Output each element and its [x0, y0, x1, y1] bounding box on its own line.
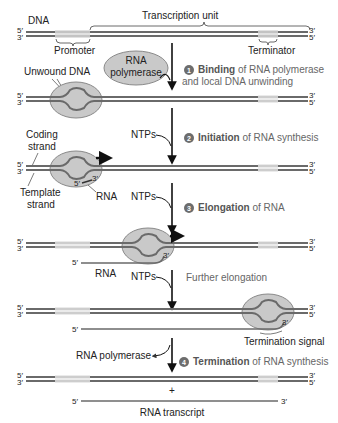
further-elongation-label: Further elongation [186, 272, 267, 283]
rna-polymerase-free: RNA polymerase [104, 51, 170, 85]
rna-label-4: RNA [95, 268, 116, 279]
ntps-3: NTPs [131, 191, 171, 208]
svg-text:NTPs: NTPs [131, 191, 156, 202]
svg-text:2: 2 [187, 135, 191, 142]
step-4: 4 Termination of RNA synthesis [179, 356, 328, 367]
terminator-region [258, 30, 278, 38]
svg-text:5′: 5′ [309, 167, 315, 176]
svg-text:3′: 3′ [17, 33, 23, 42]
svg-text:3′: 3′ [163, 251, 169, 260]
svg-text:5′: 5′ [309, 33, 315, 42]
svg-text:1: 1 [187, 67, 191, 74]
dna-row-1: DNA Transcription unit 5′ 3′ 3′ 5′ Promo… [17, 10, 315, 56]
promoter-label: Promoter [54, 45, 96, 56]
step-1: 1 Binding of RNA polymerase and local DN… [182, 64, 325, 87]
svg-text:5′: 5′ [74, 179, 80, 188]
step-3: 3 Elongation of RNA [184, 202, 285, 213]
svg-text:3′: 3′ [92, 174, 98, 183]
svg-text:Termination of RNA synthesis: Termination of RNA synthesis [193, 356, 328, 367]
transcription-unit-bracket [90, 22, 310, 30]
rna-polymerase-release-label: RNA polymerase [76, 350, 151, 361]
svg-text:polymerase: polymerase [110, 67, 162, 78]
coding-strand-label: Coding [26, 129, 58, 140]
svg-text:5′: 5′ [72, 325, 78, 334]
svg-text:NTPs: NTPs [131, 271, 156, 282]
svg-text:5′: 5′ [72, 258, 78, 267]
svg-text:3′: 3′ [282, 318, 288, 327]
svg-text:3′: 3′ [17, 167, 23, 176]
svg-text:3′: 3′ [17, 98, 23, 107]
svg-text:and local DNA unwinding: and local DNA unwinding [182, 76, 293, 87]
transcription-unit-label: Transcription unit [142, 10, 219, 21]
svg-text:3′: 3′ [281, 397, 287, 406]
dna-label: DNA [28, 15, 49, 26]
rna-label-3: RNA [96, 191, 117, 202]
ntps-4: NTPs [131, 271, 171, 288]
ntps-2: NTPs [131, 129, 171, 146]
step-2: 2 Initiation of RNA synthesis [184, 132, 319, 143]
polymerase-release: RNA polymerase [76, 345, 170, 361]
svg-text:NTPs: NTPs [131, 129, 156, 140]
svg-text:strand: strand [28, 141, 56, 152]
diagram-canvas: DNA Transcription unit 5′ 3′ 3′ 5′ Promo… [0, 0, 338, 423]
svg-text:Elongation of RNA: Elongation of RNA [198, 202, 285, 213]
unwound-dna-label: Unwound DNA [24, 66, 90, 77]
svg-text:strand: strand [27, 199, 55, 210]
svg-text:5′: 5′ [72, 397, 78, 406]
svg-text:5′: 5′ [309, 244, 315, 253]
svg-text:5′: 5′ [309, 310, 315, 319]
svg-text:3′: 3′ [17, 244, 23, 253]
dna-row-4: 5′ 3′ 3′ 5′ 5′ 3′ RNA [17, 228, 315, 279]
svg-text:3′: 3′ [17, 378, 23, 387]
svg-text:RNA: RNA [125, 55, 146, 66]
svg-text:Binding of RNA polymerase: Binding of RNA polymerase [198, 64, 325, 75]
svg-text:Initiation of RNA synthesis: Initiation of RNA synthesis [198, 132, 319, 143]
promoter-region [55, 30, 90, 38]
svg-text:5′: 5′ [309, 98, 315, 107]
template-strand-label: Template [20, 187, 61, 198]
terminator-label: Terminator [248, 45, 296, 56]
rna-transcript-label: RNA transcript [140, 407, 205, 418]
termination-signal-label: Termination signal [244, 336, 325, 347]
svg-text:5′: 5′ [309, 378, 315, 387]
plus-sign: + [169, 385, 175, 396]
transcription-diagram: DNA Transcription unit 5′ 3′ 3′ 5′ Promo… [0, 0, 338, 423]
svg-text:3′: 3′ [17, 310, 23, 319]
dna-row-6: 5′ 3′ 3′ 5′ + 5′ 3′ RNA transcript [17, 371, 315, 418]
dna-row-5: 5′ 3′ 3′ 5′ 5′ 3′ Termination signal [17, 294, 325, 347]
svg-text:3: 3 [187, 205, 191, 212]
svg-text:4: 4 [182, 359, 186, 366]
